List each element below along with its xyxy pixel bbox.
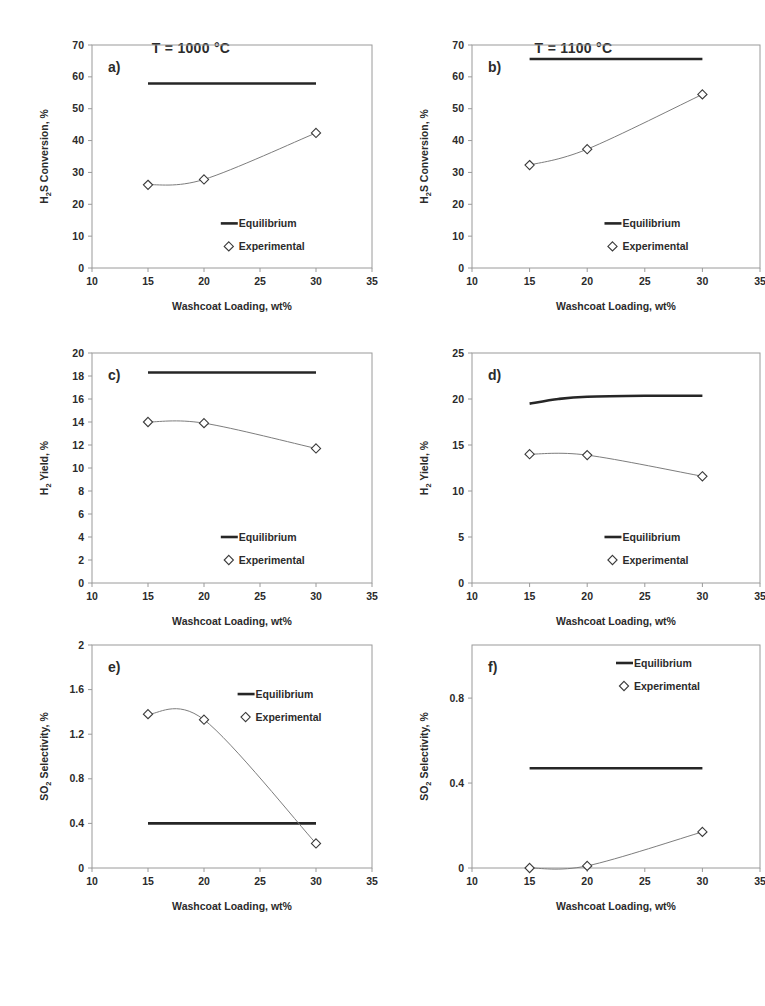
x-tick-label: 30 xyxy=(310,590,322,602)
y-tick-label: 0.8 xyxy=(449,692,464,704)
experimental-data-marker xyxy=(698,90,707,99)
experimental-data-marker xyxy=(525,161,534,170)
legend: EquilibriumExperimental xyxy=(221,531,305,566)
x-axis-title: Washcoat Loading, wt% xyxy=(556,900,676,912)
x-tick-label: 20 xyxy=(581,590,593,602)
x-tick-label: 30 xyxy=(310,275,322,287)
plot-frame xyxy=(92,645,372,868)
legend-experimental-swatch xyxy=(619,681,628,690)
x-tick-label: 15 xyxy=(142,875,154,887)
x-tick-label: 25 xyxy=(254,590,266,602)
equilibrium-line xyxy=(530,396,703,404)
chart-f: 00.40.8101520253035Washcoat Loading, wt%… xyxy=(382,635,765,1006)
x-tick-label: 15 xyxy=(142,275,154,287)
legend-experimental-label: Experimental xyxy=(622,554,688,566)
legend-equilibrium-label: Equilibrium xyxy=(239,531,297,543)
y-axis-title: SO2 Selectivity, % xyxy=(38,712,53,801)
legend-experimental-swatch xyxy=(608,555,617,564)
experimental-line xyxy=(148,133,316,185)
panel-letter: c) xyxy=(108,367,120,383)
x-tick-label: 30 xyxy=(697,875,709,887)
plot-frame xyxy=(472,353,760,583)
y-tick-label: 40 xyxy=(452,134,464,146)
panel-d: 0510152025101520253035Washcoat Loading, … xyxy=(382,335,765,635)
y-tick-label: 8 xyxy=(78,485,84,497)
y-tick-label: 10 xyxy=(72,462,84,474)
y-tick-label: 0 xyxy=(78,862,84,874)
experimental-data-marker xyxy=(698,472,707,481)
panel-f: 00.40.8101520253035Washcoat Loading, wt%… xyxy=(382,635,765,1006)
x-tick-label: 25 xyxy=(254,875,266,887)
chart-a: 010203040506070101520253035Washcoat Load… xyxy=(0,0,382,335)
panel-c: 02468101214161820101520253035Washcoat Lo… xyxy=(0,335,382,635)
y-tick-label: 20 xyxy=(72,347,84,359)
x-tick-label: 10 xyxy=(86,275,98,287)
experimental-data-marker xyxy=(583,145,592,154)
y-tick-label: 4 xyxy=(78,531,84,543)
plot-frame xyxy=(92,45,372,268)
y-tick-label: 0.4 xyxy=(69,817,84,829)
panel-b: 010203040506070101520253035Washcoat Load… xyxy=(382,0,765,335)
y-axis-title: H2 Yield, % xyxy=(418,440,433,495)
panel-letter: d) xyxy=(488,367,501,383)
x-axis-title: Washcoat Loading, wt% xyxy=(556,615,676,627)
y-tick-label: 50 xyxy=(452,102,464,114)
x-tick-label: 10 xyxy=(466,590,478,602)
chart-b: 010203040506070101520253035Washcoat Load… xyxy=(382,0,765,335)
y-tick-label: 25 xyxy=(452,347,464,359)
panel-a: 010203040506070101520253035Washcoat Load… xyxy=(0,0,382,335)
y-axis-title: H2 Yield, % xyxy=(38,440,53,495)
panel-letter: a) xyxy=(108,59,120,75)
legend-experimental-swatch xyxy=(224,242,233,251)
y-tick-label: 20 xyxy=(452,198,464,210)
y-tick-label: 20 xyxy=(452,393,464,405)
x-tick-label: 35 xyxy=(754,875,765,887)
plot-frame xyxy=(472,45,760,268)
y-tick-label: 60 xyxy=(452,70,464,82)
y-tick-label: 30 xyxy=(452,166,464,178)
x-tick-label: 25 xyxy=(639,590,651,602)
experimental-data-marker xyxy=(311,444,320,453)
legend: EquilibriumExperimental xyxy=(604,217,688,252)
y-tick-label: 2 xyxy=(78,639,84,651)
legend-equilibrium-label: Equilibrium xyxy=(622,531,680,543)
legend-equilibrium-label: Equilibrium xyxy=(256,688,314,700)
x-tick-label: 25 xyxy=(639,275,651,287)
experimental-data-marker xyxy=(311,128,320,137)
y-tick-label: 70 xyxy=(72,39,84,51)
y-tick-label: 50 xyxy=(72,102,84,114)
x-tick-label: 20 xyxy=(198,275,210,287)
x-tick-label: 30 xyxy=(697,275,709,287)
y-tick-label: 0 xyxy=(458,862,464,874)
experimental-data-marker xyxy=(143,710,152,719)
y-tick-label: 14 xyxy=(72,416,84,428)
experimental-data-marker xyxy=(199,419,208,428)
experimental-data-marker xyxy=(525,863,534,872)
legend-experimental-swatch xyxy=(224,555,233,564)
legend-experimental-label: Experimental xyxy=(239,554,305,566)
y-tick-label: 18 xyxy=(72,370,84,382)
y-tick-label: 30 xyxy=(72,166,84,178)
x-axis-title: Washcoat Loading, wt% xyxy=(172,300,292,312)
chart-c: 02468101214161820101520253035Washcoat Lo… xyxy=(0,335,382,635)
legend-equilibrium-label: Equilibrium xyxy=(239,217,297,229)
legend-experimental-label: Experimental xyxy=(239,240,305,252)
x-axis-title: Washcoat Loading, wt% xyxy=(172,900,292,912)
x-tick-label: 10 xyxy=(86,875,98,887)
x-tick-label: 35 xyxy=(366,875,378,887)
y-tick-label: 5 xyxy=(458,531,464,543)
panel-letter: b) xyxy=(488,59,501,75)
y-tick-label: 0.4 xyxy=(449,777,464,789)
experimental-line xyxy=(148,421,316,449)
x-axis-title: Washcoat Loading, wt% xyxy=(172,615,292,627)
experimental-line xyxy=(530,453,703,476)
y-tick-label: 40 xyxy=(72,134,84,146)
y-tick-label: 16 xyxy=(72,393,84,405)
x-tick-label: 15 xyxy=(524,275,536,287)
y-tick-label: 6 xyxy=(78,508,84,520)
y-tick-label: 0.8 xyxy=(69,772,84,784)
x-tick-label: 20 xyxy=(581,275,593,287)
chart-e: 00.40.81.21.62101520253035Washcoat Loadi… xyxy=(0,635,382,1006)
x-tick-label: 20 xyxy=(198,875,210,887)
x-tick-label: 15 xyxy=(524,875,536,887)
